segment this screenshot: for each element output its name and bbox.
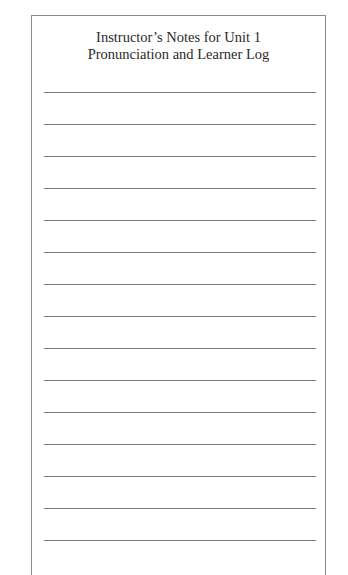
writing-line (44, 540, 316, 541)
writing-line (44, 188, 316, 189)
writing-line (44, 284, 316, 285)
title-line-2: Pronunciation and Learner Log (32, 46, 325, 63)
writing-line (44, 92, 316, 93)
notes-box: Instructor’s Notes for Unit 1 Pronunciat… (31, 15, 326, 575)
writing-line (44, 380, 316, 381)
writing-line (44, 476, 316, 477)
page-title: Instructor’s Notes for Unit 1 Pronunciat… (32, 29, 325, 63)
writing-line (44, 412, 316, 413)
writing-line (44, 124, 316, 125)
writing-line (44, 316, 316, 317)
writing-line (44, 220, 316, 221)
writing-line (44, 508, 316, 509)
writing-line (44, 252, 316, 253)
writing-line (44, 348, 316, 349)
writing-line (44, 156, 316, 157)
writing-line (44, 444, 316, 445)
title-line-1: Instructor’s Notes for Unit 1 (32, 29, 325, 46)
